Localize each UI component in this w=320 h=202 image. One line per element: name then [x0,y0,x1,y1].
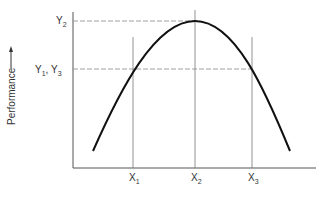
x2-label: X2 [191,172,202,185]
y2-label: Y2 [56,15,67,28]
y-axis-title: Performance [6,67,17,125]
y-axis-label: Performance [6,67,17,125]
x1-label: X1 [129,172,140,185]
x3-label: X3 [248,172,259,185]
performance-curve-diagram: Performance Y2 Y1, Y3 X1 X2 X3 [0,0,320,202]
performance-curve [93,21,290,151]
up-arrow-icon [9,46,13,68]
y1-y3-label: Y1, Y3 [35,64,62,77]
